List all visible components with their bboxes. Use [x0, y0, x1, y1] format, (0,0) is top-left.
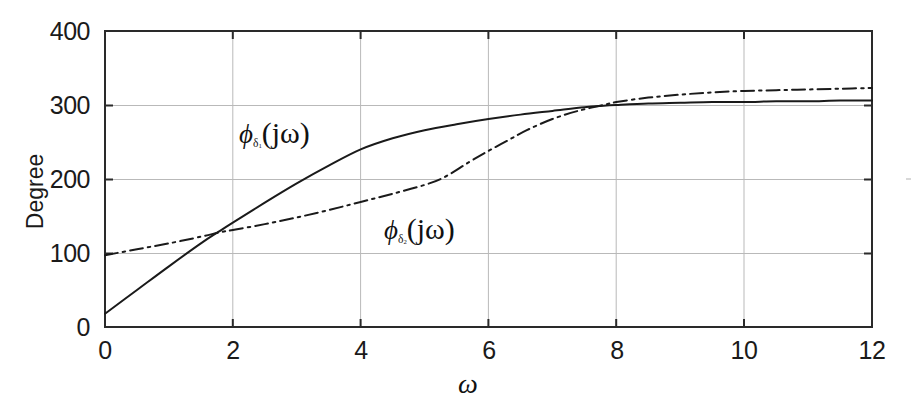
x-tick-4: 4	[354, 336, 367, 365]
y-axis-label: Degree	[22, 112, 49, 272]
y-tick-400: 400	[18, 17, 90, 46]
x-tick-6: 6	[482, 336, 495, 365]
x-tick-2: 2	[226, 336, 239, 365]
scan-artifact-mark	[906, 178, 911, 180]
x-tick-12: 12	[859, 336, 886, 365]
series-label-phi-delta1: ϕδ1(jω)	[239, 118, 310, 150]
y-tick-0: 0	[18, 313, 90, 342]
phase-plot-figure: 400 300 200 100 0 0 2 4 6 8 10 12 Degree…	[0, 0, 924, 415]
series-label-phi-delta2: ϕδ2(jω)	[384, 214, 455, 246]
phi-argument-1: (jω)	[262, 116, 310, 149]
plot-canvas	[0, 0, 924, 415]
x-axis-label: ω	[438, 368, 498, 400]
phi-glyph-2: ϕ	[384, 215, 398, 245]
x-tick-8: 8	[610, 336, 623, 365]
x-tick-10: 10	[731, 336, 758, 365]
phi-argument-2: (jω)	[407, 212, 455, 245]
x-tick-0: 0	[98, 336, 111, 365]
phi-glyph-1: ϕ	[239, 119, 253, 149]
